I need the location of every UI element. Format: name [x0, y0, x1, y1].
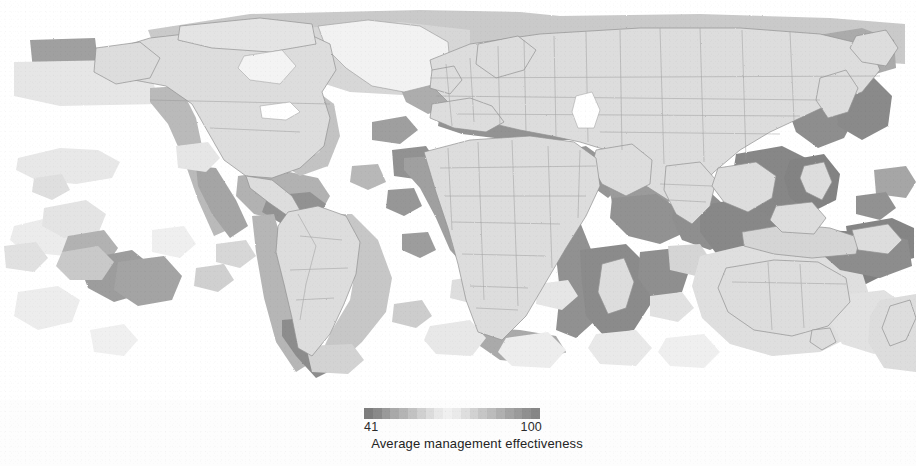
world-map-svg	[0, 0, 916, 400]
world-map	[0, 0, 916, 400]
colorbar-gradient	[364, 408, 540, 419]
legend: 41 100 Average management effectiveness	[0, 402, 916, 466]
figure-root: 41 100 Average management effectiveness	[0, 0, 916, 466]
colorbar-caption: Average management effectiveness	[0, 436, 916, 451]
scan-overlay	[0, 0, 916, 400]
colorbar-min-label: 41	[364, 420, 378, 435]
colorbar-max-label: 100	[521, 420, 542, 435]
colorbar-ticks: 41 100	[364, 420, 540, 435]
